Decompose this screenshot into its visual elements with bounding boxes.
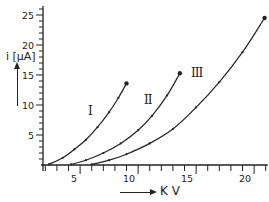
data-point: [125, 153, 127, 155]
data-point: [48, 163, 50, 165]
x-tick-label: 15: [181, 173, 193, 184]
data-point: [62, 157, 64, 159]
data-point: [108, 111, 110, 113]
y-axis-label: i [μA]: [6, 50, 36, 63]
curve-label-i: I: [88, 104, 92, 118]
data-point: [108, 159, 110, 161]
y-tick-label: 20: [22, 40, 34, 51]
data-point: [91, 163, 93, 165]
curve-label-ii: II: [144, 93, 151, 107]
y-tick-label: 5: [28, 130, 34, 141]
data-point: [120, 142, 122, 144]
data-point: [85, 139, 87, 141]
data-point: [178, 71, 182, 75]
data-point: [70, 163, 72, 165]
data-point: [96, 126, 98, 128]
data-point: [195, 106, 197, 108]
y-tick-label: 10: [22, 100, 34, 111]
data-point: [102, 152, 104, 154]
data-point: [218, 81, 220, 83]
data-point: [149, 142, 151, 144]
y-axis-arrow-icon: [17, 66, 18, 106]
data-point: [117, 97, 119, 99]
data-point: [241, 51, 243, 53]
x-axis-label: K V: [160, 184, 180, 198]
data-point: [85, 159, 87, 161]
data-point: [137, 129, 139, 131]
data-point: [73, 148, 75, 150]
data-point: [151, 115, 153, 117]
curve-label-iii: III: [191, 66, 202, 80]
curve-ii: [71, 73, 180, 164]
iv-chart: 5101520255101520: [0, 0, 269, 202]
y-tick-label: 25: [22, 10, 34, 21]
x-tick-label: 5: [71, 173, 77, 184]
x-tick-label: 20: [239, 173, 251, 184]
data-point: [262, 16, 266, 20]
x-axis-arrowhead-icon: [150, 189, 157, 195]
y-tick-label: 15: [22, 70, 34, 81]
curve-iii: [92, 18, 265, 164]
x-tick-label: 10: [123, 173, 135, 184]
curve-i: [49, 83, 127, 164]
y-axis-arrowhead-icon: [14, 62, 20, 69]
data-point: [124, 81, 128, 85]
curves: [48, 16, 267, 166]
data-point: [172, 128, 174, 130]
x-axis-arrow-icon: [120, 192, 152, 193]
data-point: [166, 94, 168, 96]
